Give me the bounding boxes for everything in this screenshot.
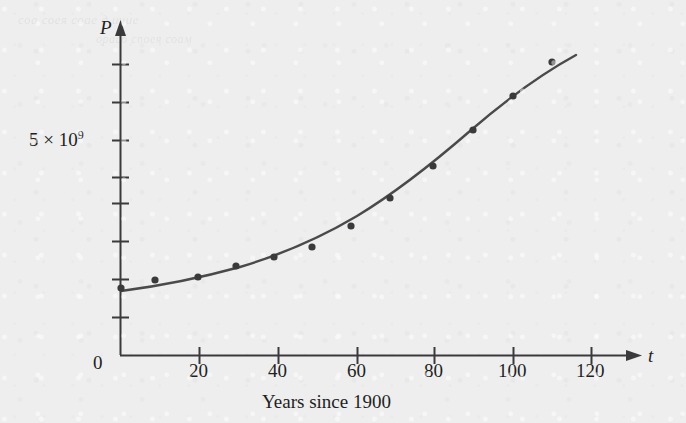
y-axis-tick-label-mantissa: 5 × 10	[29, 129, 78, 150]
x-axis-tick-label-0: 0	[93, 352, 103, 374]
data-points	[117, 58, 555, 291]
x-axis-variable-label: t	[648, 345, 653, 367]
x-axis-tick-label-100: 100	[498, 360, 527, 382]
data-point	[232, 262, 239, 269]
data-point	[117, 284, 124, 291]
x-axis-tick-label-120: 120	[576, 360, 605, 382]
data-point	[509, 92, 516, 99]
y-axis-tick-label-exponent: 9	[78, 128, 84, 142]
y-axis-tick-label-5e9: 5 × 109	[29, 128, 84, 151]
y-axis	[115, 20, 126, 355]
data-point	[469, 126, 476, 133]
data-point	[429, 162, 436, 169]
exponential-model-curve	[121, 55, 576, 291]
data-point	[151, 276, 158, 283]
x-axis-tick-label-80: 80	[424, 360, 443, 382]
data-point	[194, 273, 201, 280]
data-point	[548, 58, 555, 65]
data-point	[308, 243, 315, 250]
data-point	[386, 194, 393, 201]
data-point	[347, 222, 354, 229]
x-axis-tick-label-20: 20	[189, 360, 208, 382]
figure-caption: Years since 1900	[262, 391, 391, 413]
x-axis-tick-label-40: 40	[268, 360, 287, 382]
x-axis-tick-label-60: 60	[347, 360, 366, 382]
population-growth-figure: соа соея соае д ичие орасб споея соам	[0, 0, 686, 423]
data-point	[270, 253, 277, 260]
y-axis-variable-label: P	[100, 17, 112, 39]
